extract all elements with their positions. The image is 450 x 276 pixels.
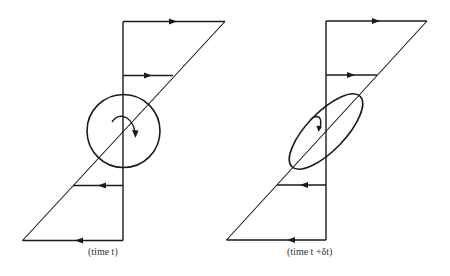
panel-time-t-plus-dt [227, 18, 428, 243]
shear-flow-figure: (time t) (time t +δt) [0, 0, 450, 276]
arrow-right-icon [347, 72, 355, 78]
arrow-left-icon [75, 238, 83, 244]
arrow-right-icon [169, 19, 177, 25]
arrow-left-icon [300, 182, 308, 188]
arrow-left-icon [287, 237, 295, 243]
velocity-profile-line [23, 22, 226, 241]
velocity-profile-line [227, 21, 428, 240]
arrow-left-icon [98, 183, 106, 189]
clockwise-arrow-icon [132, 130, 139, 138]
arrow-right-icon [144, 73, 152, 79]
figure-canvas [0, 0, 450, 276]
panel-time-t [23, 19, 226, 244]
caption-time-t: (time t) [88, 246, 118, 257]
arrow-right-icon [372, 18, 380, 24]
caption-time-t-plus-dt: (time t +δt) [287, 246, 332, 257]
clockwise-arrow-icon [317, 126, 323, 133]
